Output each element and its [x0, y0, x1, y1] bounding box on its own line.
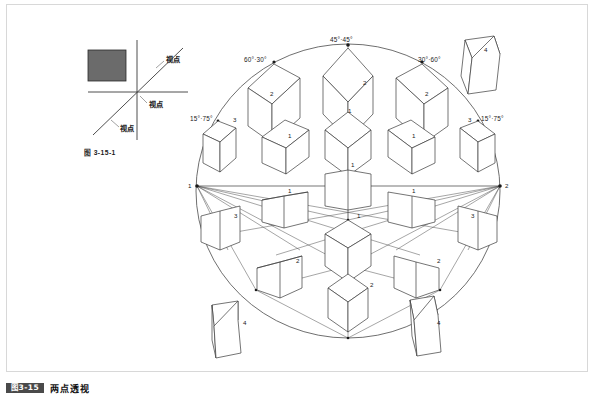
box-number-marker: 1 [357, 212, 361, 219]
box-number-marker: 1 [351, 161, 355, 168]
viewpoint-label-upper-right: 视点 [166, 55, 181, 64]
angle-label-right: 15°·75° [481, 115, 504, 122]
box-number-marker: 2 [425, 90, 429, 97]
box-edge-right-upper [460, 121, 495, 172]
box-number-marker: 3 [233, 116, 237, 123]
inset-viewpoint-axes: 视点 视点 视点 图 3-15-1 [84, 40, 188, 157]
box-below-right [388, 192, 435, 228]
box-number-marker: 1 [412, 132, 416, 139]
box-number-marker: 1 [288, 132, 292, 139]
sub-figure-label: 图 3-15-1 [84, 148, 116, 157]
box-number-marker: 3 [234, 212, 238, 219]
left-vanishing-point [195, 184, 199, 188]
figure-caption: 图3-15 两点透视 [6, 380, 90, 396]
box-outside-bottom-right [410, 296, 441, 356]
figure-caption-badge: 图3-15 [6, 383, 44, 394]
inset-leader-lower [111, 120, 119, 127]
box-edge-right-lower [458, 206, 497, 250]
box-below-left [262, 192, 308, 228]
figure-caption-text: 两点透视 [50, 382, 90, 395]
box-number-marker: 2 [370, 281, 374, 288]
box-number-marker: 2 [437, 257, 441, 264]
box-number-marker: 3 [468, 116, 472, 123]
angle-label-left: 15°·75° [190, 115, 213, 122]
box-lower-right [394, 256, 439, 298]
box-number-marker: 1 [348, 107, 352, 114]
box-number-marker: 2 [296, 257, 300, 264]
viewpoint-label-center: 视点 [149, 100, 164, 109]
right-vanishing-point [498, 184, 502, 188]
box-edge-left-upper [203, 121, 236, 172]
perspective-diagram-canvas: 视点 视点 视点 图 3-15-1 [0, 0, 594, 402]
box-center-lower-diamond [325, 220, 371, 282]
box-number-marker: 1 [288, 187, 292, 194]
vp-left-label: 1 [188, 182, 192, 189]
vp-right-label: 2 [505, 182, 509, 189]
inset-leader-center [140, 96, 147, 103]
box-outside-top-right [461, 36, 500, 94]
box-horizon-center [325, 170, 371, 210]
inset-gray-swatch [88, 50, 126, 81]
angle-label-top-left: 60°·30° [244, 56, 267, 63]
figure-page: 视点 视点 视点 图 3-15-1 [0, 0, 594, 402]
viewpoint-label-lower-left: 视点 [120, 124, 135, 133]
box-number-marker: 4 [437, 319, 441, 326]
angle-label-top-center: 45°·45° [330, 36, 353, 43]
box-number-marker: 1 [412, 187, 416, 194]
box-number-marker: 2 [363, 79, 367, 86]
angle-label-top-right: 30°·60° [418, 56, 441, 63]
box-outside-bottom-left [212, 301, 241, 358]
box-number-marker: 2 [270, 90, 274, 97]
box-number-marker: 3 [471, 212, 475, 219]
box-bottom-center [328, 274, 368, 332]
box-number-marker: 4 [243, 319, 247, 326]
box-number-marker: 4 [484, 46, 488, 53]
